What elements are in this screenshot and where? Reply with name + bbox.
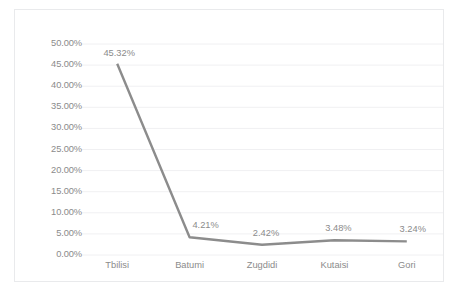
- y-axis-tick-label: 40.00%: [22, 80, 82, 90]
- y-axis-tick-label: 45.00%: [22, 59, 82, 69]
- y-axis-tick-label: 5.00%: [22, 228, 82, 238]
- y-axis-tick-label: 30.00%: [22, 122, 82, 132]
- y-axis-tick-label: 20.00%: [22, 165, 82, 175]
- y-axis-tick-label: 15.00%: [22, 186, 82, 196]
- x-axis-category-label: Zugdidi: [226, 260, 298, 276]
- figure-caption: [10, 292, 310, 301]
- series-line: [117, 64, 407, 245]
- line-chart-figure: 0.00%5.00%10.00%15.00%20.00%25.00%30.00%…: [0, 0, 456, 301]
- x-axis-category-labels: TbilisiBatumiZugdidiKutaisiGori: [81, 260, 443, 276]
- data-point-label: 2.42%: [253, 228, 279, 238]
- x-axis-category-label: Batumi: [153, 260, 225, 276]
- data-point-label: 3.48%: [325, 223, 351, 233]
- data-point-label: 3.24%: [400, 224, 426, 234]
- x-axis-category-label: Tbilisi: [81, 260, 153, 276]
- y-axis-tick-label: 50.00%: [22, 38, 82, 48]
- y-axis-tick-labels: 0.00%5.00%10.00%15.00%20.00%25.00%30.00%…: [22, 0, 82, 301]
- y-axis-tick-label: 35.00%: [22, 101, 82, 111]
- data-point-label: 4.21%: [192, 220, 218, 230]
- x-axis-category-label: Gori: [371, 260, 443, 276]
- data-series-group: [117, 64, 407, 245]
- x-axis-category-label: Kutaisi: [298, 260, 370, 276]
- gridlines-group: [81, 44, 443, 255]
- y-axis-tick-label: 10.00%: [22, 207, 82, 217]
- data-point-label: 45.32%: [103, 48, 135, 58]
- y-axis-tick-label: 25.00%: [22, 144, 82, 154]
- y-axis-tick-label: 0.00%: [22, 249, 82, 259]
